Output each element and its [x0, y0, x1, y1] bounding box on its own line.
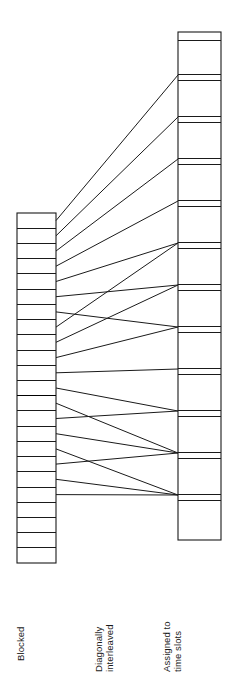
right-column-time-slots — [178, 32, 221, 540]
connection-line — [56, 243, 178, 327]
connection-line — [56, 243, 178, 282]
connection-line — [56, 285, 178, 297]
connection-line — [56, 449, 178, 495]
right-column-outline — [178, 32, 221, 540]
connection-line — [56, 403, 178, 453]
label-diagonally-interleaved: Diagonally interleaved — [93, 624, 115, 672]
assignment-diagram — [0, 0, 230, 679]
connection-line — [56, 117, 178, 236]
label-blocked: Blocked — [15, 627, 26, 662]
connection-line — [56, 388, 178, 411]
figure-root: Blocked Diagonally interleaved Assigned … — [0, 0, 230, 679]
left-column-outline — [17, 213, 56, 563]
connection-lines — [56, 75, 178, 495]
connection-line — [56, 285, 178, 342]
connection-line — [56, 201, 178, 266]
left-column-blocked — [17, 213, 56, 563]
connection-line — [56, 75, 178, 221]
connection-line — [56, 411, 178, 419]
connection-line — [56, 453, 178, 464]
label-assigned-to-time-slots: Assigned to time slots — [161, 621, 183, 672]
connection-line — [56, 434, 178, 453]
connection-line — [56, 369, 178, 373]
connection-line — [56, 159, 178, 251]
connection-line — [56, 327, 178, 358]
connection-line — [56, 479, 178, 495]
